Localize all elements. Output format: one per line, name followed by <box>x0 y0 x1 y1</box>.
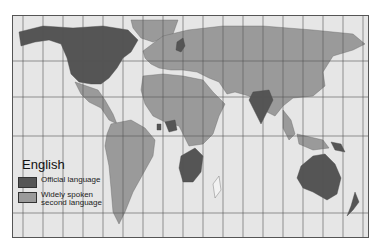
legend-label-line2: second language <box>41 198 102 207</box>
second-language-swatch <box>18 192 37 203</box>
legend-item-second: Widely spoken second language <box>18 191 118 207</box>
legend-label-second: Widely spoken second language <box>41 191 102 207</box>
legend-item-official: Official language <box>18 176 118 188</box>
legend-title: English <box>22 157 118 172</box>
official-swatch <box>18 177 37 188</box>
legend-label-official: Official language <box>41 176 100 184</box>
map-legend: English Official language Widely spoken … <box>18 157 118 210</box>
